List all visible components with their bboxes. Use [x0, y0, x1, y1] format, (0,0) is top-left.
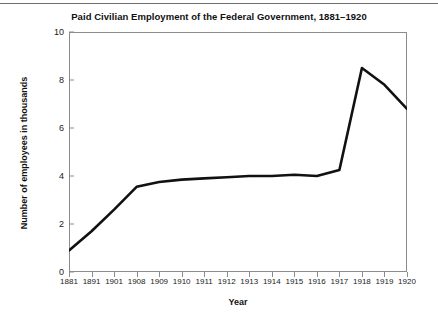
y-tick-label: 8 [48, 75, 64, 85]
x-tick-label: 1919 [376, 277, 394, 286]
y-tick-mark [69, 32, 74, 33]
x-tick-label: 1916 [308, 277, 326, 286]
x-tick-label: 1915 [285, 277, 303, 286]
x-tick-label: 1901 [105, 277, 123, 286]
x-tick-label: 1908 [128, 277, 146, 286]
x-tick-label: 1920 [398, 277, 416, 286]
line-series-plot [69, 32, 407, 272]
x-tick-label: 1911 [196, 277, 213, 286]
x-tick-label: 1914 [263, 277, 281, 286]
chart-title: Paid Civilian Employment of the Federal … [0, 11, 438, 22]
y-tick-mark [69, 128, 74, 129]
x-tick-label: 1917 [330, 277, 348, 286]
page-top-rule [0, 3, 438, 4]
x-axis-title: Year [69, 297, 407, 307]
x-tick-label: 1918 [353, 277, 371, 286]
x-tick-label: 1913 [240, 277, 258, 286]
y-tick-label: 10 [48, 27, 64, 37]
x-tick-label: 1909 [150, 277, 168, 286]
y-tick-mark [69, 224, 74, 225]
y-axis-title: Number of employees in thousands [19, 63, 29, 243]
x-tick-label: 1910 [173, 277, 191, 286]
y-tick-label: 2 [48, 219, 64, 229]
y-tick-mark [69, 176, 74, 177]
y-tick-label: 0 [48, 267, 64, 277]
x-tick-label: 1891 [83, 277, 101, 286]
y-tick-label: 4 [48, 171, 64, 181]
x-tick-label: 1912 [218, 277, 236, 286]
data-line [69, 68, 407, 250]
y-tick-mark [69, 80, 74, 81]
chart-page: Paid Civilian Employment of the Federal … [0, 0, 438, 327]
x-tick-label: 1881 [60, 277, 78, 286]
y-tick-label: 6 [48, 123, 64, 133]
